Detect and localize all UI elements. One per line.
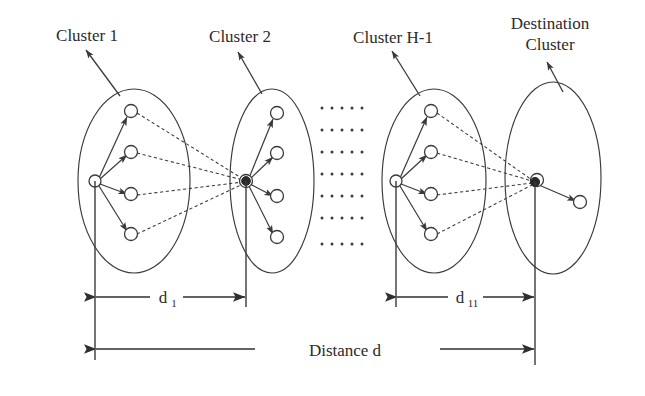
- node-c2-member-2: [271, 147, 284, 160]
- node-c2-member-1: [271, 107, 284, 120]
- node-ch1-member-4: [425, 228, 438, 241]
- edge-ch1-hub-to-member-3: [401, 184, 427, 194]
- node-c1-member-2: [125, 146, 138, 159]
- cluster-h-1-nodes: [390, 105, 438, 241]
- cluster-h-1-edges: [400, 117, 427, 231]
- node-c2-member-4: [271, 231, 284, 244]
- label-cluster-2: Cluster 2: [209, 27, 271, 46]
- edge-dest-hub-to-member-1: [539, 185, 576, 201]
- node-ch1-member-2: [425, 146, 438, 159]
- label-d1-base: d: [159, 288, 168, 307]
- cluster-h-1-to-destination-links: [437, 113, 532, 234]
- destination-cluster-ellipse: [505, 82, 601, 274]
- pointer-destination-cluster: [547, 62, 563, 92]
- edge-ch1-hub-to-member-1: [400, 117, 427, 178]
- node-ch1-member-3: [425, 188, 438, 201]
- pointer-cluster-2: [238, 52, 262, 94]
- cluster-1-nodes: [89, 105, 138, 241]
- node-c1-member-1: [125, 105, 138, 118]
- pointer-cluster-h-1: [392, 51, 420, 96]
- edge-c2-hub-to-member-4: [249, 186, 273, 234]
- label-d11: d 11: [456, 288, 479, 309]
- label-destination-cluster-line-1: Destination: [511, 14, 590, 33]
- label-cluster-h-1: Cluster H-1: [353, 28, 433, 47]
- node-ch1-member-1: [425, 105, 438, 118]
- link-ch1m3-to-dest-hub: [437, 183, 532, 195]
- destination-cluster-edges: [539, 185, 576, 201]
- node-dest-member-1: [574, 196, 587, 209]
- label-distance-d: Distance d: [309, 341, 382, 360]
- diagram-canvas: Cluster 1 Cluster 2 Cluster H-1 Destinat…: [0, 0, 645, 396]
- label-d11-subscript: 11: [468, 297, 479, 309]
- pointer-cluster-1: [86, 50, 120, 96]
- node-c1-member-3: [125, 188, 138, 201]
- reference-lines: [95, 181, 535, 365]
- link-ch1m1-to-dest-hub: [437, 113, 532, 180]
- ellipsis-dot-grid: [321, 107, 364, 246]
- destination-cluster-nodes: [530, 174, 586, 209]
- label-cluster-1: Cluster 1: [56, 26, 118, 45]
- link-ch1m4-to-dest-hub: [437, 185, 532, 234]
- label-d11-base: d: [456, 288, 465, 307]
- node-c2-member-3: [271, 190, 284, 203]
- node-c1-member-4: [125, 228, 138, 241]
- cluster-chain-diagram: Cluster 1 Cluster 2 Cluster H-1 Destinat…: [0, 0, 645, 396]
- label-d1: d 1: [159, 288, 177, 309]
- label-destination-cluster-line-2: Cluster: [525, 35, 574, 54]
- label-d1-subscript: 1: [171, 297, 177, 309]
- label-pointers: [86, 50, 563, 96]
- edge-c1-hub-to-member-3: [100, 184, 127, 194]
- edge-c1-hub-to-member-1: [99, 117, 127, 178]
- cluster-2-edges: [249, 119, 273, 234]
- cluster-1-edges: [99, 117, 127, 231]
